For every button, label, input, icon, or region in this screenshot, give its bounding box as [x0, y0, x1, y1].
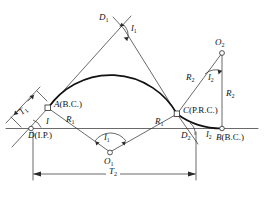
label-angle-i: I	[46, 117, 49, 126]
label-radius-r2-slant: R2	[186, 73, 195, 82]
label-angle-i2-lower: I2	[206, 130, 212, 139]
label-angle-i2-upper: I2	[208, 73, 214, 82]
radius-line-a-o1	[48, 108, 110, 152]
label-point-d1: D1	[99, 13, 109, 22]
t1-tick-start	[11, 117, 21, 127]
label-radius-r2-vertical: R2	[226, 89, 235, 98]
label-tangent-t2: T2	[106, 167, 120, 176]
label-point-b: B(B.C.)	[216, 133, 244, 142]
arc-c-to-b	[177, 114, 222, 129]
label-point-d2: D2	[181, 131, 191, 140]
angle-arc-i1-bottom	[95, 133, 126, 141]
tangent-line-d1-upper-extension	[113, 17, 124, 29]
reverse-curve-diagram: D1 I1 O2 R2 I2 R2 T1 A(B.C.) C(P.R.C.) R…	[0, 0, 264, 197]
label-point-d: D(I.P.)	[28, 131, 52, 140]
point-marker-b	[220, 126, 225, 131]
point-marker-c	[174, 111, 179, 116]
radius-line-c-o1	[110, 114, 177, 152]
label-center-o2: O2	[215, 38, 225, 47]
point-marker-o1	[108, 150, 113, 155]
label-angle-i1-bottom: I1	[104, 133, 110, 142]
label-center-o1: O1	[104, 157, 114, 166]
point-marker-o2	[220, 51, 225, 56]
label-point-a: A(B.C.)	[54, 100, 82, 109]
label-point-c: C(P.R.C.)	[183, 106, 218, 115]
point-marker-a	[45, 105, 50, 110]
label-radius-r1-right: R1	[155, 117, 164, 126]
label-angle-i1-top: I1	[131, 24, 137, 33]
angle-arc-i	[33, 120, 41, 128]
label-radius-r1-left: R1	[66, 115, 75, 124]
t1-tick-end	[37, 91, 47, 101]
